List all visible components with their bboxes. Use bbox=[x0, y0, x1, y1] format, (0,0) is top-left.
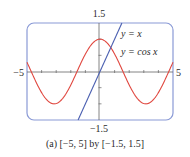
y-max-label: 1.5 bbox=[93, 8, 106, 19]
legend-cos: y = cos x bbox=[120, 46, 158, 57]
legend-identity: y = x bbox=[120, 28, 142, 39]
x-min-label: −5 bbox=[13, 67, 24, 78]
y-min-label: −1.5 bbox=[90, 123, 108, 134]
chart-caption: (a) [−5, 5] by [−1.5, 1.5] bbox=[0, 138, 190, 149]
chart-svg: 1.5 −1.5 −5 5 y = x y = cos x bbox=[0, 0, 190, 157]
identity-line bbox=[78, 23, 122, 120]
x-max-label: 5 bbox=[176, 67, 181, 78]
